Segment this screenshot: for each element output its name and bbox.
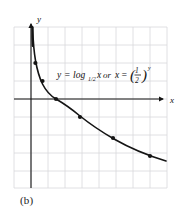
- data-point: [111, 136, 115, 140]
- y-axis-label: y: [36, 14, 41, 24]
- equation-fraction-denominator: 2: [135, 76, 139, 85]
- data-point: [40, 79, 44, 83]
- figure-container: y x y = log 1/2 x or: [0, 0, 187, 218]
- equation-exponent: y: [147, 65, 151, 71]
- equation-paren-close: ): [141, 67, 147, 84]
- equation-log-word: log: [73, 70, 85, 80]
- equation-fraction-numerator: 1: [135, 66, 139, 75]
- figure-caption: (b): [20, 194, 33, 206]
- data-point: [54, 97, 58, 101]
- equation-rhs-var: x: [114, 70, 120, 80]
- equation-equals-1: =: [64, 70, 70, 80]
- data-point: [33, 61, 37, 65]
- plot-background: [0, 0, 187, 218]
- data-point: [148, 154, 152, 158]
- equation-log-base: 1/2: [88, 76, 96, 82]
- data-point: [78, 115, 82, 119]
- x-axis-label: x: [169, 95, 174, 105]
- equation-equals-2: =: [121, 70, 127, 80]
- equation-lhs-var: y: [56, 70, 62, 80]
- log-function-plot: y x y = log 1/2 x or: [0, 0, 187, 218]
- equation-log-arg: x: [96, 70, 102, 80]
- equation-conjunction: or: [103, 70, 112, 80]
